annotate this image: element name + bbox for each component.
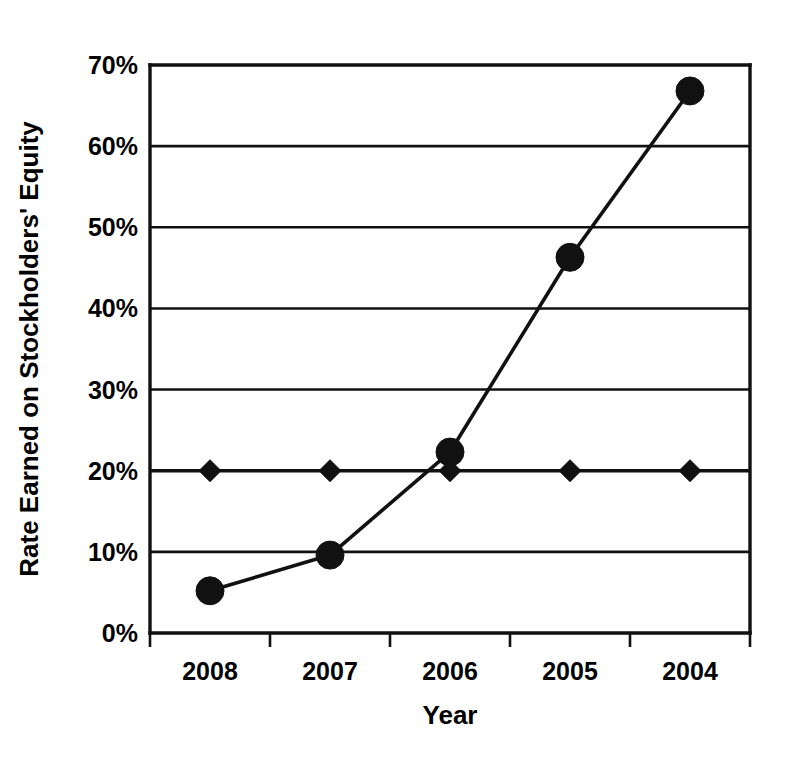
x-tick-label: 2005 xyxy=(542,657,598,685)
y-tick-label: 10% xyxy=(88,538,138,566)
y-tick-label: 0% xyxy=(102,619,138,647)
data-point-marker xyxy=(316,541,344,569)
y-tick-label: 30% xyxy=(88,376,138,404)
line-chart: 0%10%20%30%40%50%60%70% 2008200720062005… xyxy=(0,0,793,767)
x-tick-label: 2007 xyxy=(302,657,358,685)
x-axis-title: Year xyxy=(423,700,478,730)
x-tick-label: 2008 xyxy=(182,657,238,685)
y-tick-label: 40% xyxy=(88,294,138,322)
y-tick-label: 60% xyxy=(88,132,138,160)
data-point-marker xyxy=(556,243,584,271)
chart-container: 0%10%20%30%40%50%60%70% 2008200720062005… xyxy=(0,0,793,767)
y-tick-label: 50% xyxy=(88,213,138,241)
y-tick-label: 70% xyxy=(88,51,138,79)
data-point-marker xyxy=(196,577,224,605)
data-point-marker xyxy=(676,77,704,105)
x-tick-label: 2006 xyxy=(422,657,478,685)
y-axis-title: Rate Earned on Stockholders' Equity xyxy=(14,121,44,577)
x-tick-label: 2004 xyxy=(662,657,718,685)
y-tick-label: 20% xyxy=(88,457,138,485)
